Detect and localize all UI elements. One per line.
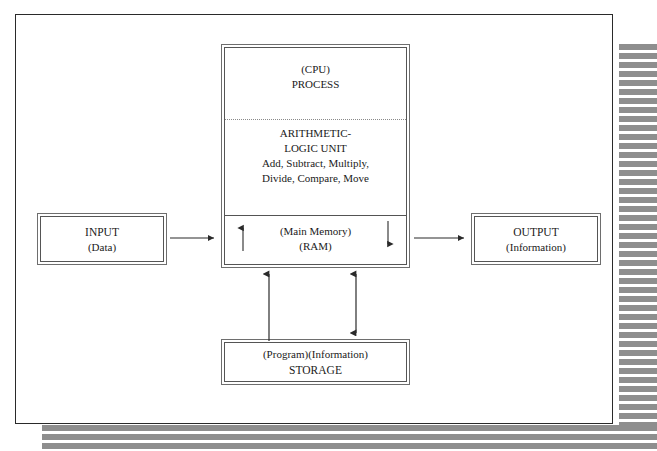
diagram-canvas: INPUT (Data) OUTPUT (Information) (CPU) …	[0, 0, 657, 451]
main-memory-label: (Main Memory)	[225, 224, 406, 239]
memory-read-up-arrow	[237, 221, 249, 251]
storage-label: STORAGE	[225, 362, 406, 378]
memory-write-down-arrow	[382, 221, 394, 251]
memory-storage-sync-arrow	[350, 266, 362, 341]
cpu-process-section: (CPU) PROCESS	[225, 48, 406, 120]
input-sublabel: (Data)	[41, 240, 163, 255]
cpu-memory-section: (Main Memory) (RAM)	[225, 216, 406, 266]
cpu-box-inner: (CPU) PROCESS ARITHMETIC- LOGIC UNIT Add…	[224, 47, 407, 265]
input-box-inner: INPUT (Data)	[40, 216, 164, 262]
process-label: PROCESS	[225, 77, 406, 92]
input-label: INPUT	[41, 224, 163, 240]
alu-label-line1: ARITHMETIC-	[225, 126, 406, 141]
cpu-to-output-arrow	[414, 231, 474, 245]
input-box-text: INPUT (Data)	[41, 224, 163, 255]
output-label: OUTPUT	[475, 224, 597, 240]
output-box-text: OUTPUT (Information)	[475, 224, 597, 255]
alu-label-line2: LOGIC UNIT	[225, 141, 406, 156]
alu-operations-line1: Add, Subtract, Multiply,	[225, 156, 406, 171]
page-stack-shadow-right	[619, 44, 657, 425]
output-box-inner: OUTPUT (Information)	[474, 216, 598, 262]
cpu-alu-section: ARITHMETIC- LOGIC UNIT Add, Subtract, Mu…	[225, 120, 406, 216]
storage-box-inner: (Program)(Information) STORAGE	[224, 342, 407, 382]
input-to-cpu-arrow	[170, 231, 222, 245]
ram-label: (RAM)	[225, 239, 406, 254]
output-sublabel: (Information)	[475, 240, 597, 255]
cpu-memory-text: (Main Memory) (RAM)	[225, 224, 406, 254]
cpu-label: (CPU)	[225, 62, 406, 77]
storage-sublabel: (Program)(Information)	[225, 347, 406, 362]
cpu-process-text: (CPU) PROCESS	[225, 62, 406, 92]
storage-to-memory-arrow	[263, 266, 275, 341]
storage-box[interactable]: (Program)(Information) STORAGE	[221, 339, 410, 385]
output-box[interactable]: OUTPUT (Information)	[471, 213, 601, 265]
page-stack-shadow-bottom	[42, 425, 657, 451]
input-box[interactable]: INPUT (Data)	[37, 213, 167, 265]
alu-operations-line2: Divide, Compare, Move	[225, 171, 406, 186]
cpu-alu-text: ARITHMETIC- LOGIC UNIT Add, Subtract, Mu…	[225, 126, 406, 186]
cpu-box[interactable]: (CPU) PROCESS ARITHMETIC- LOGIC UNIT Add…	[221, 44, 410, 268]
storage-box-text: (Program)(Information) STORAGE	[225, 347, 406, 378]
